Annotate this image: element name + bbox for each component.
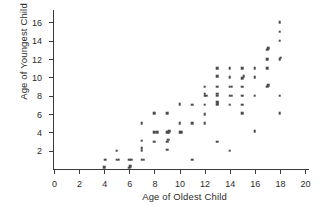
data-point — [279, 21, 282, 24]
x-tick-label: 0 — [52, 179, 57, 189]
data-point — [104, 159, 107, 162]
data-point — [117, 159, 120, 162]
x-tick: 16 — [255, 170, 256, 174]
data-point — [279, 39, 282, 42]
data-point — [141, 139, 144, 142]
y-tick-label: 6 — [37, 110, 42, 120]
x-tick-label: 14 — [225, 179, 235, 189]
scatter-chart-figure: 246810121416 02468101214161820 Age of Ol… — [0, 0, 329, 205]
data-point — [228, 149, 231, 152]
data-point — [141, 147, 144, 150]
data-point — [178, 103, 181, 106]
data-point — [254, 76, 257, 79]
data-point — [203, 113, 206, 116]
data-point — [153, 112, 156, 115]
x-tick: 10 — [180, 170, 181, 174]
data-point — [266, 58, 269, 61]
data-point — [203, 122, 206, 125]
data-point — [228, 67, 231, 70]
y-tick-label: 12 — [32, 55, 42, 65]
data-point — [228, 76, 231, 79]
y-tick: 10 — [49, 77, 53, 78]
data-point — [242, 75, 245, 78]
data-point — [216, 67, 219, 70]
data-point — [115, 149, 118, 152]
y-axis-line — [53, 10, 54, 169]
plot-area: 246810121416 02468101214161820 — [54, 15, 305, 169]
x-tick-label: 18 — [275, 179, 285, 189]
data-point — [103, 166, 106, 169]
data-point — [166, 148, 169, 151]
x-tick: 0 — [54, 170, 55, 174]
data-point — [279, 112, 282, 115]
x-tick-label: 12 — [200, 179, 210, 189]
data-point — [241, 67, 244, 70]
data-point — [254, 130, 257, 133]
data-point — [141, 122, 144, 125]
data-point — [267, 47, 270, 50]
x-tick-label: 16 — [250, 179, 260, 189]
x-tick: 6 — [129, 170, 130, 174]
data-point — [153, 140, 156, 143]
data-point — [180, 131, 183, 134]
data-point — [241, 112, 244, 115]
y-tick-label: 14 — [32, 36, 42, 46]
data-point — [216, 75, 219, 78]
data-point — [279, 94, 282, 97]
data-point — [216, 101, 219, 104]
y-tick-label: 10 — [32, 73, 42, 83]
y-tick: 14 — [49, 41, 53, 42]
data-point — [168, 130, 171, 133]
x-axis-line — [53, 169, 309, 170]
data-point — [216, 93, 219, 96]
data-point — [267, 84, 270, 87]
data-point — [191, 159, 194, 162]
y-tick: 2 — [49, 151, 53, 152]
data-point — [129, 165, 132, 168]
x-tick-label: 6 — [127, 179, 132, 189]
x-tick: 2 — [79, 170, 80, 174]
y-tick: 8 — [49, 96, 53, 97]
data-point — [216, 140, 219, 143]
x-axis-label: Age of Oldest Child — [0, 191, 329, 202]
data-point — [130, 159, 133, 162]
data-point — [241, 104, 244, 107]
data-point — [141, 149, 144, 152]
data-point — [279, 56, 282, 59]
data-point — [279, 30, 282, 33]
data-point — [254, 67, 257, 70]
x-tick: 4 — [104, 170, 105, 174]
data-point — [230, 85, 233, 88]
data-point — [166, 112, 169, 115]
x-tick: 14 — [230, 170, 231, 174]
x-tick: 8 — [154, 170, 155, 174]
y-tick: 12 — [49, 59, 53, 60]
data-point — [216, 85, 219, 88]
y-tick: 4 — [49, 132, 53, 133]
data-point — [230, 94, 233, 97]
y-tick: 6 — [49, 114, 53, 115]
data-point — [203, 85, 206, 88]
y-tick-label: 16 — [32, 18, 42, 28]
y-tick-label: 4 — [37, 128, 42, 138]
data-point — [191, 104, 194, 107]
x-tick-label: 10 — [175, 179, 185, 189]
data-point — [167, 138, 170, 141]
x-tick-label: 4 — [102, 179, 107, 189]
x-tick-label: 2 — [77, 179, 82, 189]
y-tick-label: 2 — [37, 146, 42, 156]
y-tick-label: 8 — [37, 91, 42, 101]
data-point — [178, 122, 181, 125]
x-tick-label: 20 — [300, 179, 310, 189]
data-point — [254, 94, 257, 97]
data-point — [142, 159, 145, 162]
x-tick: 18 — [280, 170, 281, 174]
data-point — [266, 67, 269, 70]
data-point — [203, 104, 206, 107]
data-point — [203, 93, 206, 96]
x-tick-label: 8 — [152, 179, 157, 189]
data-point — [241, 85, 244, 88]
data-point — [228, 104, 231, 107]
data-point — [156, 131, 159, 134]
x-tick: 20 — [305, 170, 306, 174]
